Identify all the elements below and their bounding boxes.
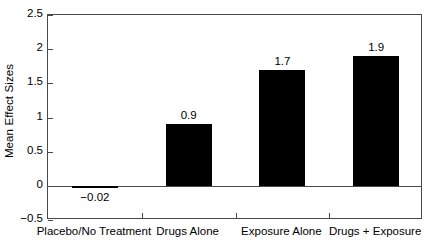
x-axis-category-label: Placebo/No Treatment [37,225,151,237]
bar [353,56,399,186]
bar-value-label: 1.9 [368,42,384,54]
bar-value-label: 0.9 [181,110,197,122]
x-axis-tick-mark [142,213,143,218]
x-axis-tick-mark [329,213,330,218]
bar [166,124,212,186]
y-axis-tick-labels: 2.521.510.50−0.5 [13,0,43,249]
y-axis-tick-label: 1 [13,111,43,123]
y-axis-tick-mark [48,118,53,119]
y-axis-tick-mark [48,186,53,187]
bar-chart: Mean Effect Sizes 2.521.510.50−0.5 −0.02… [0,0,430,249]
bar [72,186,118,188]
bar [259,70,305,186]
y-axis-tick-label: 1.5 [13,77,43,89]
y-axis-tick-mark [48,49,53,50]
y-axis-tick-mark [48,152,53,153]
y-axis-tick-mark [48,83,53,84]
x-axis-category-label: Drugs Alone [156,225,219,237]
x-axis-tick-mark [236,213,237,218]
plot-area: −0.020.91.71.9 [47,14,422,219]
y-axis-tick-mark [48,220,53,221]
x-axis-category-label: Exposure Alone [241,225,322,237]
x-axis-tick-labels: Placebo/No TreatmentDrugs AloneExposure … [47,225,422,245]
y-axis-tick-label: 0 [13,179,43,191]
y-axis-tick-mark [48,15,53,16]
x-axis-category-label: Drugs + Exposure [329,225,421,237]
y-axis-tick-label: 2.5 [13,8,43,20]
bar-value-label: 1.7 [274,56,290,68]
bar-value-label: −0.02 [80,192,109,204]
y-axis-tick-label: 2 [13,42,43,54]
y-axis-tick-label: 0.5 [13,145,43,157]
y-axis-tick-label: −0.5 [13,213,43,225]
